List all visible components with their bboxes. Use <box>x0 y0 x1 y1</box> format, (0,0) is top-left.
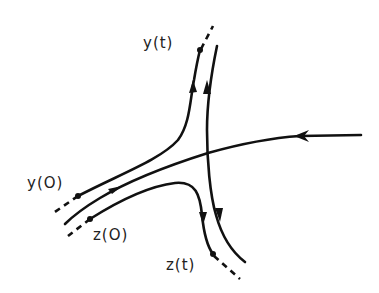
y-start-point <box>75 193 81 199</box>
z-start-point <box>87 216 93 222</box>
z-end-dashed-extension <box>214 256 240 279</box>
saddle-point-diagram <box>0 0 379 293</box>
y-end-point <box>197 47 203 53</box>
y-end-dashed-extension <box>201 26 213 49</box>
z-trajectory-arrow-icon <box>199 212 207 225</box>
y-trajectory-arrow-icon <box>189 80 197 93</box>
unstable-manifold-curve <box>207 46 245 262</box>
y-start-dashed-extension <box>52 196 78 214</box>
label-y-end: y(t) <box>143 34 173 52</box>
label-y-start: y(O) <box>27 174 63 192</box>
z-start-dashed-extension <box>68 219 90 236</box>
y-trajectory-curve <box>78 50 200 196</box>
label-z-end: z(t) <box>166 256 195 274</box>
z-end-point <box>210 251 216 257</box>
label-z-start: z(O) <box>93 226 128 244</box>
